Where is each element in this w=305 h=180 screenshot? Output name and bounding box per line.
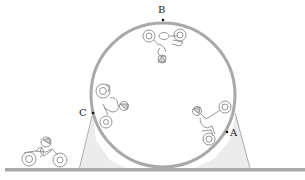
- loop-track: [91, 23, 235, 167]
- ground-track: [5, 168, 305, 172]
- point-b-marker: [162, 19, 165, 22]
- rider-ground-icon: [22, 137, 67, 167]
- label-point-a: A: [230, 128, 237, 138]
- point-c-marker: [92, 112, 95, 115]
- rider-top-icon: [143, 29, 186, 63]
- loop-diagram: B C A: [0, 0, 305, 180]
- point-a-marker: [226, 131, 229, 134]
- rider-right-icon: [193, 101, 232, 145]
- label-point-b: B: [158, 5, 165, 15]
- label-point-c: C: [79, 108, 87, 118]
- left-ramp: [79, 113, 130, 170]
- rider-left-icon: [96, 84, 129, 128]
